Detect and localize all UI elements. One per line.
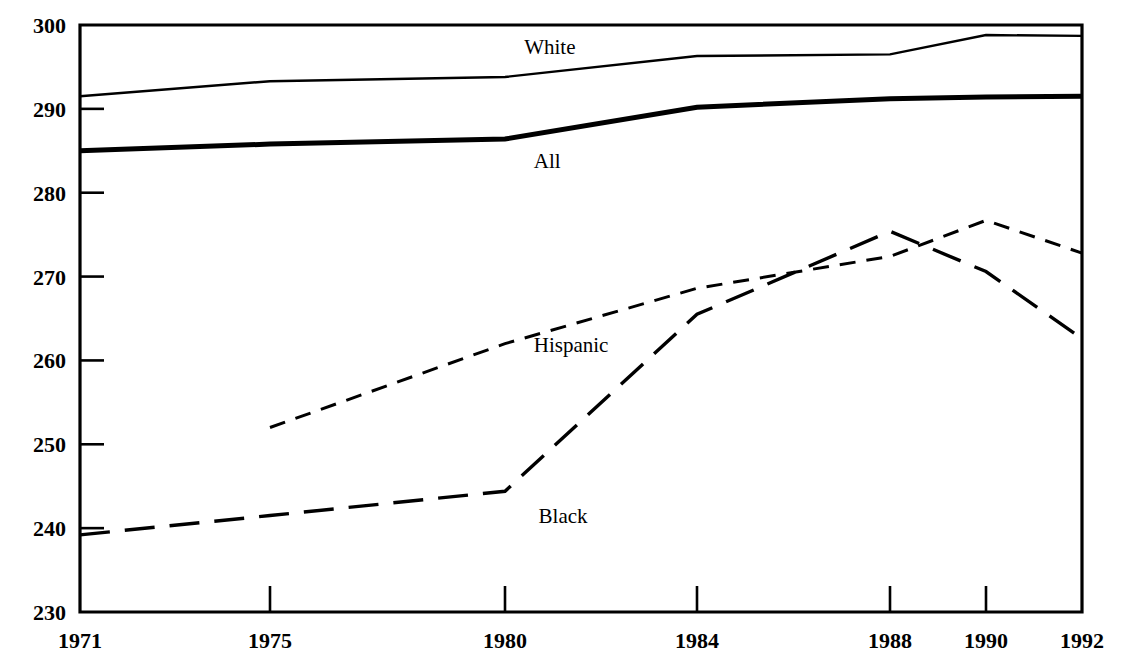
x-axis-ticks — [270, 586, 986, 612]
y-tick-label: 240 — [33, 516, 66, 541]
chart-series — [80, 35, 1082, 535]
x-tick-label: 1990 — [964, 628, 1008, 653]
series-line-all — [80, 96, 1082, 151]
y-tick-label: 230 — [33, 600, 66, 625]
x-tick-label: 1980 — [483, 628, 527, 653]
y-axis-ticks — [80, 109, 104, 528]
series-label-all: All — [534, 149, 561, 173]
y-axis-tick-labels: 230240250260270280290300 — [33, 13, 66, 625]
y-tick-label: 280 — [33, 181, 66, 206]
y-tick-label: 300 — [33, 13, 66, 38]
x-tick-label: 1992 — [1060, 628, 1104, 653]
chart-series-labels: WhiteAllHispanicBlack — [524, 35, 608, 529]
x-tick-label: 1984 — [675, 628, 719, 653]
series-label-hispanic: Hispanic — [534, 333, 609, 357]
x-tick-label: 1975 — [248, 628, 292, 653]
series-line-hispanic — [270, 220, 1082, 427]
line-chart: 230240250260270280290300 197119751980198… — [0, 0, 1124, 672]
series-line-white — [80, 35, 1082, 96]
x-tick-label: 1971 — [58, 628, 102, 653]
y-tick-label: 290 — [33, 97, 66, 122]
series-label-black: Black — [539, 504, 588, 528]
chart-container: 230240250260270280290300 197119751980198… — [0, 0, 1124, 672]
x-axis-tick-labels: 1971197519801984198819901992 — [58, 628, 1104, 653]
series-label-white: White — [524, 35, 575, 59]
x-tick-label: 1988 — [868, 628, 912, 653]
y-tick-label: 250 — [33, 432, 66, 457]
series-line-black — [80, 231, 1082, 535]
y-tick-label: 270 — [33, 265, 66, 290]
y-tick-label: 260 — [33, 348, 66, 373]
